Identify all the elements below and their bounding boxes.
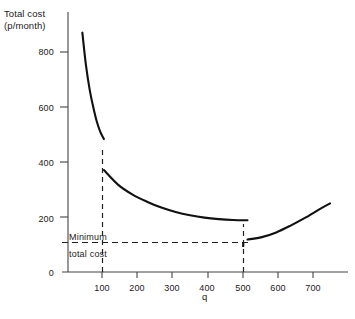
cost-curve-segment-1 <box>82 33 104 139</box>
cost-curve-segment-2 <box>104 170 248 220</box>
total-cost-chart: Total cost (p/month) q 800 600 400 200 0… <box>0 0 355 319</box>
cost-curve-segment-3 <box>247 203 330 239</box>
plot-area <box>0 0 355 319</box>
